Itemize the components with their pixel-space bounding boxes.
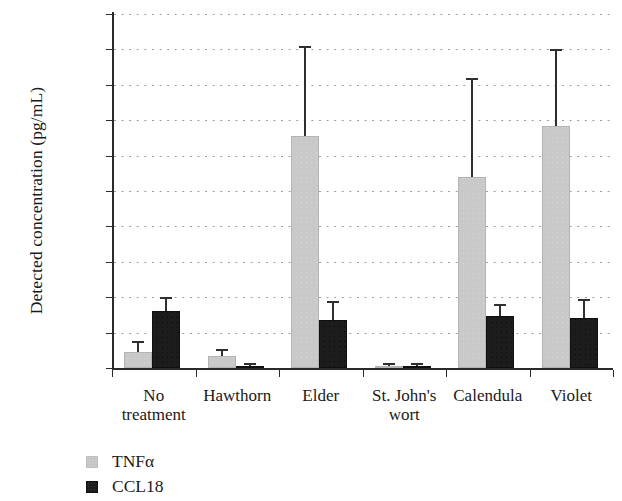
- bar-ccl18: [403, 366, 431, 368]
- error-bar-whisker: [137, 343, 139, 352]
- error-bar-cap: [411, 363, 423, 365]
- error-bar-cap: [244, 363, 256, 365]
- x-axis-tick-mark: [363, 370, 364, 377]
- bar-tnfa: [291, 136, 319, 368]
- bar-ccl18: [319, 320, 347, 368]
- bar-group: [446, 14, 530, 368]
- bar-ccl18: [236, 366, 264, 368]
- error-bar-whisker: [332, 303, 334, 320]
- bar-ccl18: [486, 316, 514, 368]
- error-bar-cap: [578, 299, 590, 301]
- x-axis-category-label-line: Violet: [520, 386, 622, 405]
- x-axis-tick-mark: [196, 370, 197, 377]
- error-bar-cap: [550, 49, 562, 51]
- legend-label: TNFα: [112, 451, 154, 472]
- error-bar-cap: [466, 78, 478, 80]
- x-axis-tick-mark: [279, 370, 280, 377]
- error-bar-whisker: [221, 351, 223, 356]
- bar-tnfa: [375, 366, 403, 368]
- error-bar-cap: [160, 297, 172, 299]
- error-bar-cap: [494, 304, 506, 306]
- x-axis-category-label-line: wort: [353, 405, 457, 424]
- bar-tnfa: [124, 352, 152, 368]
- error-bar-whisker: [416, 365, 418, 366]
- error-bar-whisker: [499, 306, 501, 316]
- bar-chart-figure: Detected concentration (pg/mL) 010002000…: [0, 0, 622, 501]
- error-bar-cap: [132, 341, 144, 343]
- error-bar-whisker: [471, 80, 473, 177]
- bar-group: [196, 14, 280, 368]
- error-bar-cap: [383, 363, 395, 365]
- bar-tnfa: [208, 356, 236, 368]
- error-bar-whisker: [249, 365, 251, 366]
- legend-item: CCL18: [86, 474, 164, 499]
- error-bar-whisker: [583, 301, 585, 319]
- bar-group: [530, 14, 614, 368]
- bar-group: [363, 14, 447, 368]
- x-axis-tick-mark: [446, 370, 447, 377]
- x-axis-tick-mark: [613, 370, 614, 377]
- legend-swatch-tnfa: [86, 456, 98, 468]
- legend-item: TNFα: [86, 449, 164, 474]
- error-bar-cap: [299, 46, 311, 48]
- x-axis-category-label-line: treatment: [102, 405, 206, 424]
- bar-ccl18: [570, 318, 598, 368]
- chart-legend: TNFαCCL18: [86, 449, 164, 499]
- error-bar-whisker: [304, 48, 306, 137]
- plot-area: NotreatmentHawthornElderSt. John'swortCa…: [112, 14, 613, 368]
- bar-group: [112, 14, 196, 368]
- bar-group: [279, 14, 363, 368]
- x-axis-tick-mark: [530, 370, 531, 377]
- legend-label: CCL18: [112, 476, 164, 497]
- x-axis-tick-mark: [112, 370, 113, 377]
- error-bar-whisker: [388, 365, 390, 366]
- error-bar-whisker: [555, 51, 557, 125]
- x-axis-category-label: Violet: [520, 386, 622, 405]
- bar-tnfa: [542, 126, 570, 368]
- error-bar-cap: [327, 301, 339, 303]
- y-axis-title: Detected concentration (pg/mL): [26, 15, 47, 387]
- error-bar-cap: [216, 349, 228, 351]
- error-bar-whisker: [165, 299, 167, 311]
- legend-swatch-ccl18: [86, 481, 98, 493]
- bar-tnfa: [458, 177, 486, 368]
- bar-ccl18: [152, 311, 180, 368]
